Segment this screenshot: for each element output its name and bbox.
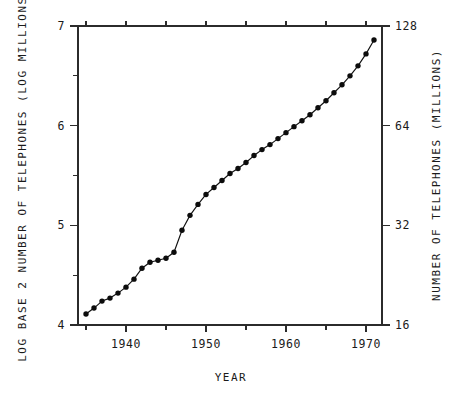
data-point (235, 166, 240, 171)
data-point (171, 250, 176, 255)
data-point (91, 305, 96, 310)
y-axis-left-ticks (70, 26, 78, 325)
y-axis-right-ticks (382, 26, 390, 325)
data-point (315, 105, 320, 110)
data-point (371, 37, 376, 42)
y-axis-tick-label: 7 (57, 19, 65, 33)
data-point (131, 276, 136, 281)
data-point (187, 213, 192, 218)
data-point (323, 98, 328, 103)
y-axis-tick-label: 5 (57, 218, 65, 232)
series-line (86, 40, 374, 314)
data-point (339, 82, 344, 87)
chart-canvas: 45671632641281940195019601970 YEAR LOG B… (0, 0, 463, 402)
data-point (259, 147, 264, 152)
data-point (227, 171, 232, 176)
x-axis-tick-label: 1950 (191, 337, 221, 351)
data-point (107, 295, 112, 300)
data-point (83, 311, 88, 316)
data-point (147, 260, 152, 265)
y2-axis-tick-label: 16 (395, 318, 410, 332)
axis-tick-labels: 45671632641281940195019601970 (57, 19, 417, 351)
data-point (307, 112, 312, 117)
data-point (99, 298, 104, 303)
data-point (291, 124, 296, 129)
data-points (83, 37, 376, 316)
data-point (355, 63, 360, 68)
data-point (267, 142, 272, 147)
y-axis-tick-label: 6 (57, 119, 65, 133)
y-axis-tick-label: 4 (57, 318, 65, 332)
x-axis-tick-label: 1970 (351, 337, 381, 351)
data-point (251, 153, 256, 158)
data-point (283, 130, 288, 135)
data-series (86, 40, 374, 314)
x-axis-tick-label: 1960 (271, 337, 301, 351)
y-axis-title-right: NUMBER OF TELEPHONES (MILLIONS) (430, 49, 443, 301)
data-point (363, 51, 368, 56)
data-point (179, 228, 184, 233)
data-point (219, 178, 224, 183)
data-point (211, 185, 216, 190)
y2-axis-tick-label: 128 (395, 19, 418, 33)
x-axis-tick-label: 1940 (111, 337, 141, 351)
data-point (139, 265, 144, 270)
x-axis-title: YEAR (215, 371, 248, 384)
data-point (115, 290, 120, 295)
data-point (195, 202, 200, 207)
y2-axis-tick-label: 32 (395, 218, 410, 232)
y2-axis-tick-label: 64 (395, 119, 410, 133)
telephone-growth-chart: 45671632641281940195019601970 YEAR LOG B… (0, 0, 463, 402)
data-point (155, 258, 160, 263)
data-point (275, 136, 280, 141)
data-point (203, 192, 208, 197)
data-point (331, 90, 336, 95)
data-point (163, 256, 168, 261)
data-point (299, 118, 304, 123)
y-axis-title-left: LOG BASE 2 NUMBER OF TELEPHONES (LOG MIL… (16, 0, 29, 362)
data-point (243, 160, 248, 165)
data-point (123, 284, 128, 289)
data-point (347, 73, 352, 78)
